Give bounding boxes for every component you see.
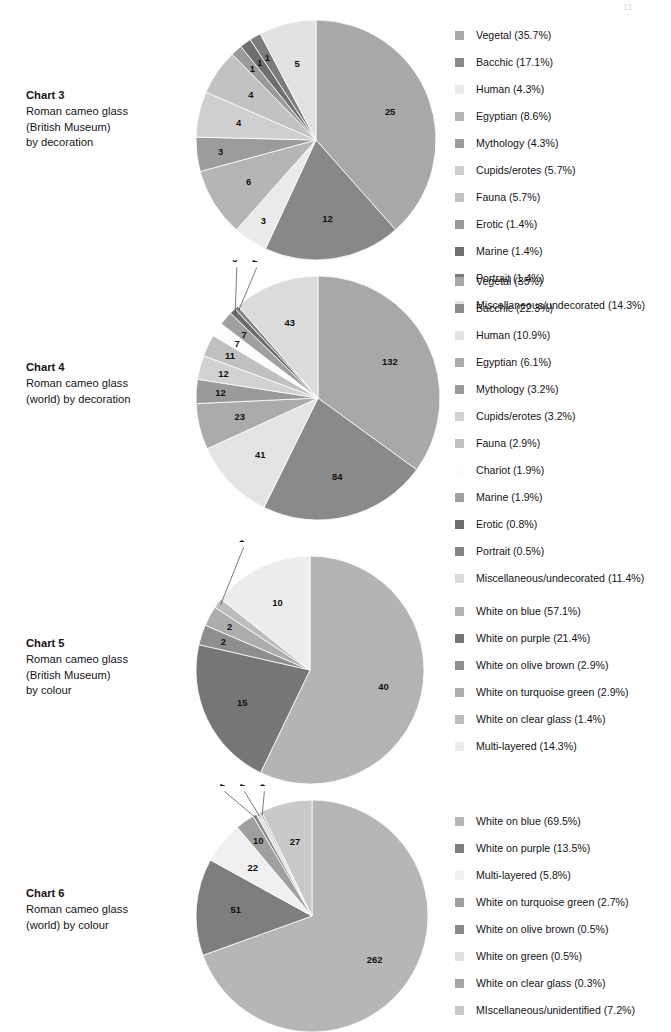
chart-6-legend-swatch-4 — [455, 925, 464, 934]
chart-6-legend-swatch-2 — [455, 871, 464, 880]
chart-5-pie-container: 401522110 — [152, 540, 424, 784]
chart-5-pie: 401522110 — [152, 540, 424, 784]
chart-4-legend-label-4: Mythology (3.2%) — [476, 384, 558, 395]
chart-4-legend-swatch-6 — [455, 439, 464, 448]
chart-3-value-label-9: 1 — [265, 52, 270, 63]
chart-3-legend-label-7: Erotic (1.4%) — [476, 219, 537, 230]
chart-6-pie-container: 26251221022127 — [152, 784, 428, 1032]
chart-4-value-label-6: 11 — [225, 350, 235, 361]
chart-5-legend-item-2[interactable]: White on olive brown (2.9%) — [455, 652, 629, 679]
chart-3-legend-item-7[interactable]: Erotic (1.4%) — [455, 211, 645, 238]
chart-3-legend-label-8: Marine (1.4%) — [476, 246, 543, 257]
chart-6-legend-item-5[interactable]: White on green (0.5%) — [455, 943, 635, 970]
chart-5-value-label-4: 1 — [239, 540, 244, 544]
chart-4-legend-item-1[interactable]: Bacchic (22.3%) — [455, 295, 644, 322]
chart-6-block: Chart 6Roman cameo glass(world) by colou… — [0, 770, 671, 1014]
chart-4-block: Chart 4Roman cameo glass(world) by decor… — [0, 260, 671, 530]
chart-6-legend-item-2[interactable]: Multi-layered (5.8%) — [455, 862, 635, 889]
chart-4-legend-item-8[interactable]: Marine (1.9%) — [455, 484, 644, 511]
chart-4-legend-item-2[interactable]: Human (10.9%) — [455, 322, 644, 349]
chart-6-legend-item-3[interactable]: White on turquoise green (2.7%) — [455, 889, 635, 916]
chart-5-legend-item-5[interactable]: Multi-layered (14.3%) — [455, 733, 629, 760]
chart-4-legend-item-0[interactable]: Vegetal (35%) — [455, 268, 644, 295]
chart-3-legend-label-3: Egyptian (8.6%) — [476, 111, 551, 122]
chart-5-legend-swatch-4 — [455, 715, 464, 724]
chart-6-legend-label-5: White on green (0.5%) — [476, 951, 582, 962]
chart-3-legend-item-2[interactable]: Human (4.3%) — [455, 76, 645, 103]
chart-4-legend-label-2: Human (10.9%) — [476, 330, 550, 341]
chart-4-legend-swatch-8 — [455, 493, 464, 502]
chart-3-pie-container: 2512363441115 — [152, 4, 436, 260]
chart-6-legend-item-6[interactable]: White on clear glass (0.3%) — [455, 970, 635, 997]
chart-4-legend-item-4[interactable]: Mythology (3.2%) — [455, 376, 644, 403]
chart-4-legend-item-3[interactable]: Egyptian (6.1%) — [455, 349, 644, 376]
chart-3-value-label-1: 12 — [322, 213, 332, 224]
chart-6-legend-label-4: White on olive brown (0.5%) — [476, 924, 608, 935]
chart-6-pie: 26251221022127 — [152, 784, 428, 1032]
chart-4-legend-label-3: Egyptian (6.1%) — [476, 357, 551, 368]
chart-6-leader-line-5 — [244, 791, 259, 816]
chart-6-value-label-5: 2 — [240, 784, 245, 788]
chart-6-legend-item-4[interactable]: White on olive brown (0.5%) — [455, 916, 635, 943]
chart-4-pie-container: 132844123121211773243 — [152, 260, 440, 520]
chart-4-value-label-9: 3 — [232, 260, 237, 264]
chart-6-legend-swatch-7 — [455, 1006, 464, 1015]
chart-6-legend-swatch-3 — [455, 898, 464, 907]
chart-6-legend-label-0: White on blue (69.5%) — [476, 816, 581, 827]
chart-3-legend-label-4: Mythology (4.3%) — [476, 138, 558, 149]
chart-3-value-label-6: 4 — [248, 89, 254, 100]
chart-3-legend-item-3[interactable]: Egyptian (8.6%) — [455, 103, 645, 130]
chart-6-legend-item-1[interactable]: White on purple (13.5%) — [455, 835, 635, 862]
chart-6-value-label-3: 10 — [253, 835, 263, 846]
chart-6-value-label-2: 22 — [248, 862, 258, 873]
chart-5-value-label-1: 15 — [237, 697, 247, 708]
chart-4-legend-swatch-3 — [455, 358, 464, 367]
chart-3-legend-item-0[interactable]: Vegetal (35.7%) — [455, 22, 645, 49]
chart-5-legend-item-1[interactable]: White on purple (21.4%) — [455, 625, 629, 652]
chart-4-legend-swatch-9 — [455, 520, 464, 529]
chart-4-legend-item-7[interactable]: Chariot (1.9%) — [455, 457, 644, 484]
chart-5-legend-swatch-0 — [455, 607, 464, 616]
chart-4-pie: 132844123121211773243 — [152, 260, 440, 520]
chart-4-legend-item-6[interactable]: Fauna (2.9%) — [455, 430, 644, 457]
chart-3-value-label-3: 6 — [246, 176, 251, 187]
chart-6-legend-item-0[interactable]: White on blue (69.5%) — [455, 808, 635, 835]
chart-5-legend-label-3: White on turquoise green (2.9%) — [476, 687, 629, 698]
chart-5-legend-item-0[interactable]: White on blue (57.1%) — [455, 598, 629, 625]
chart-3-legend-label-6: Fauna (5.7%) — [476, 192, 540, 203]
chart-5-legend-item-4[interactable]: White on clear glass (1.4%) — [455, 706, 629, 733]
chart-5-legend-item-3[interactable]: White on turquoise green (2.9%) — [455, 679, 629, 706]
chart-5-legend-label-5: Multi-layered (14.3%) — [476, 741, 577, 752]
chart-3-value-label-8: 1 — [257, 57, 262, 68]
chart-5-legend-label-0: White on blue (57.1%) — [476, 606, 581, 617]
chart-4-value-label-0: 132 — [382, 356, 398, 367]
chart-3-pie: 2512363441115 — [152, 4, 436, 260]
chart-5-legend-label-4: White on clear glass (1.4%) — [476, 714, 606, 725]
chart-5-legend: White on blue (57.1%)White on purple (21… — [455, 598, 629, 760]
chart-3-legend-item-4[interactable]: Mythology (4.3%) — [455, 130, 645, 157]
chart-3-value-label-4: 3 — [218, 146, 223, 157]
chart-6-legend-swatch-0 — [455, 817, 464, 826]
chart-6-value-label-1: 51 — [230, 904, 240, 915]
chart-4-legend-item-5[interactable]: Cupids/erotes (3.2%) — [455, 403, 644, 430]
chart-3-legend-label-5: Cupids/erotes (5.7%) — [476, 165, 576, 176]
chart-6-legend-label-1: White on purple (13.5%) — [476, 843, 590, 854]
chart-3-value-label-5: 4 — [236, 117, 242, 128]
chart-4-legend-label-8: Marine (1.9%) — [476, 492, 543, 503]
chart-3-legend-swatch-6 — [455, 193, 464, 202]
chart-6-legend-item-7[interactable]: MIscellaneous/unidentified (7.2%) — [455, 997, 635, 1024]
chart-4-legend-label-6: Fauna (2.9%) — [476, 438, 540, 449]
chart-4-value-label-11: 43 — [285, 317, 295, 328]
chart-5-legend-label-1: White on purple (21.4%) — [476, 633, 590, 644]
chart-5-legend-swatch-5 — [455, 742, 464, 751]
chart-3-legend-item-6[interactable]: Fauna (5.7%) — [455, 184, 645, 211]
chart-4-value-label-10: 2 — [252, 260, 257, 264]
chart-4-legend-label-1: Bacchic (22.3%) — [476, 303, 553, 314]
chart-3-value-label-0: 25 — [385, 106, 395, 117]
chart-3-legend-item-1[interactable]: Bacchic (17.1%) — [455, 49, 645, 76]
chart-4-legend-label-9: Erotic (0.8%) — [476, 519, 537, 530]
chart-5-value-label-2: 2 — [221, 636, 226, 647]
chart-5-legend-swatch-1 — [455, 634, 464, 643]
chart-3-legend-item-5[interactable]: Cupids/erotes (5.7%) — [455, 157, 645, 184]
chart-4-legend-swatch-7 — [455, 466, 464, 475]
